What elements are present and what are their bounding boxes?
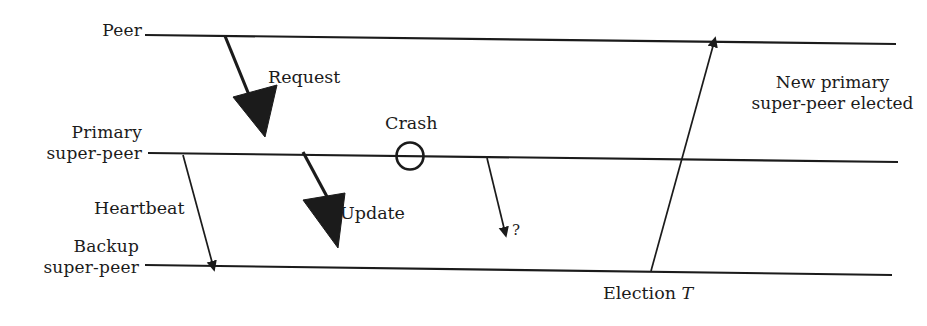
note-new-primary-elected: New primary super-peer elected bbox=[745, 72, 920, 113]
note-new-primary-elected-line1: New primary bbox=[745, 72, 920, 93]
message-arrow-update bbox=[303, 152, 345, 248]
actor-label-peer: Peer bbox=[0, 20, 142, 41]
message-label-update: Update bbox=[340, 203, 405, 224]
actor-label-peer-line1: Peer bbox=[102, 20, 142, 40]
timeline-primary-super-peer bbox=[148, 153, 898, 162]
note-new-primary-elected-line2: super-peer elected bbox=[745, 93, 920, 114]
actor-label-primary-line1: Primary bbox=[0, 122, 142, 143]
timeline-peer bbox=[145, 35, 896, 44]
message-label-unknown: ? bbox=[512, 221, 520, 239]
note-election-time-text: Election bbox=[603, 283, 676, 303]
actor-label-backup-line1: Backup bbox=[0, 236, 139, 257]
message-arrow-heartbeat bbox=[183, 155, 212, 262]
actor-label-backup-super-peer: Backup super-peer bbox=[0, 236, 139, 277]
message-arrow-unknown bbox=[487, 158, 504, 228]
actor-label-backup-line2: super-peer bbox=[0, 257, 139, 278]
event-label-crash: Crash bbox=[385, 113, 437, 134]
note-election-time: Election T bbox=[603, 283, 693, 304]
actor-label-primary-super-peer: Primary super-peer bbox=[0, 122, 142, 163]
message-label-heartbeat: Heartbeat bbox=[94, 198, 184, 219]
actor-label-primary-line2: super-peer bbox=[0, 143, 142, 164]
message-label-request: Request bbox=[268, 67, 340, 88]
timeline-backup-super-peer bbox=[145, 265, 892, 275]
diagram-canvas: Peer Primary super-peer Backup super-pee… bbox=[0, 0, 927, 326]
note-election-time-symbol: T bbox=[682, 283, 694, 303]
